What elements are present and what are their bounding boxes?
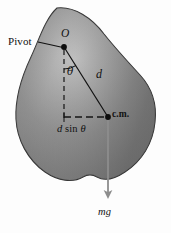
center-of-mass-label: c.m. [112,110,129,120]
pivot-point-dot [61,44,67,50]
theta-angle-label: θ [67,66,73,77]
center-of-mass-dot [105,114,111,120]
moment-arm-label: d sin θ [57,124,86,135]
origin-label: O [61,28,69,40]
moment-arm-theta: θ [80,123,85,134]
physics-figure: Pivot O θ d c.m. d sin θ mg [0,0,171,233]
moment-arm-sin: sin [65,123,78,134]
distance-d-label: d [96,68,102,80]
rigid-body-shape [16,8,156,181]
pivot-label: Pivot [8,36,32,47]
weight-label: mg [98,207,111,218]
caption-strip [0,224,171,233]
